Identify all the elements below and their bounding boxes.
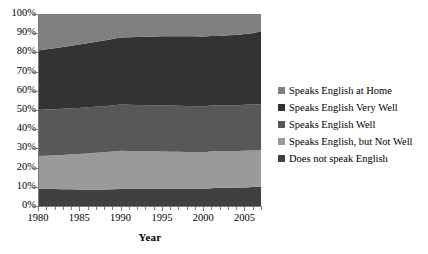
x-tick [154, 206, 155, 210]
y-tick-label: 20% [2, 162, 36, 172]
legend-swatch-icon [278, 104, 285, 111]
x-tick-label: 1985 [59, 212, 99, 223]
y-tick-label: 60% [2, 85, 36, 95]
area-series [38, 150, 261, 189]
legend-item[interactable]: Speaks English Very Well [278, 99, 428, 115]
plot-area [38, 14, 261, 206]
x-tick [195, 206, 196, 210]
x-tick [46, 206, 47, 210]
x-tick [121, 206, 122, 211]
x-tick-label: 1980 [18, 212, 58, 223]
x-tick [220, 206, 221, 210]
x-axis-title: Year [38, 231, 262, 243]
x-tick [96, 206, 97, 210]
x-tick [79, 206, 80, 211]
legend-swatch-icon [278, 121, 285, 128]
legend-item[interactable]: Speaks English at Home [278, 82, 428, 98]
x-tick [71, 206, 72, 210]
x-tick [178, 206, 179, 210]
y-axis-labels: 0%10%20%30%40%50%60%70%80%90%100% [0, 0, 36, 220]
y-tick [33, 110, 38, 111]
x-tick [170, 206, 171, 210]
y-tick [33, 168, 38, 169]
x-tick [236, 206, 237, 210]
legend-item-label: Speaks English at Home [289, 85, 392, 96]
x-tick [104, 206, 105, 210]
y-tick [33, 52, 38, 53]
x-tick [261, 206, 262, 210]
x-tick [211, 206, 212, 210]
y-tick [33, 14, 38, 15]
y-tick-label: 90% [2, 27, 36, 37]
y-tick [33, 148, 38, 149]
x-tick [112, 206, 113, 210]
y-tick [33, 72, 38, 73]
y-tick [33, 187, 38, 188]
y-tick-label: 80% [2, 46, 36, 56]
y-tick [33, 91, 38, 92]
x-tick [129, 206, 130, 210]
area-series [38, 187, 261, 206]
legend-swatch-icon [278, 87, 285, 94]
x-tick [137, 206, 138, 210]
x-tick [88, 206, 89, 210]
x-tick [145, 206, 146, 210]
y-tick-label: 70% [2, 66, 36, 76]
stacked-area-svg [38, 14, 261, 206]
y-tick-label: 30% [2, 142, 36, 152]
x-tick-label: 1990 [101, 212, 141, 223]
legend-swatch-icon [278, 138, 285, 145]
x-tick [228, 206, 229, 210]
y-tick-label: 100% [2, 8, 36, 18]
x-tick [162, 206, 163, 211]
legend-item-label: Speaks English, but Not Well [289, 136, 413, 147]
legend-item[interactable]: Speaks English, but Not Well [278, 133, 428, 149]
x-tick [38, 206, 39, 211]
legend-item-label: Does not speak English [289, 153, 388, 164]
legend-item-label: Speaks English Very Well [289, 102, 398, 113]
x-tick [253, 206, 254, 210]
plot-container: 0%10%20%30%40%50%60%70%80%90%100% 198019… [0, 0, 270, 220]
y-tick-label: 50% [2, 104, 36, 114]
x-tick [244, 206, 245, 211]
chart-legend: Speaks English at HomeSpeaks English Ver… [278, 82, 428, 167]
legend-item[interactable]: Does not speak English [278, 150, 428, 166]
x-tick-label: 1995 [142, 212, 182, 223]
y-tick-label: 0% [2, 200, 36, 210]
legend-swatch-icon [278, 155, 285, 162]
legend-item-label: Speaks English Well [289, 119, 375, 130]
y-axis-line [38, 14, 39, 207]
chart-page: 0%10%20%30%40%50%60%70%80%90%100% 198019… [0, 0, 428, 254]
y-tick [33, 129, 38, 130]
x-tick [55, 206, 56, 210]
legend-item[interactable]: Speaks English Well [278, 116, 428, 132]
x-tick-label: 2000 [183, 212, 223, 223]
x-tick [203, 206, 204, 211]
y-tick-label: 40% [2, 123, 36, 133]
area-series [38, 104, 261, 156]
x-tick [63, 206, 64, 210]
y-tick-label: 10% [2, 181, 36, 191]
x-tick [187, 206, 188, 210]
y-tick [33, 33, 38, 34]
x-tick-label: 2005 [224, 212, 264, 223]
